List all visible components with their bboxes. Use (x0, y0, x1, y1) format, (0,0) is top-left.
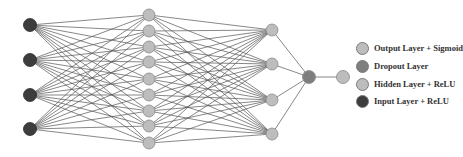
connection-edge (30, 60, 149, 126)
hidden1-node (143, 25, 155, 37)
hidden1-node (143, 56, 155, 68)
hidden2-node (266, 94, 278, 106)
legend-item-output: Output Layer + Sigmoid (356, 41, 463, 55)
legend-label: Dropout Layer (374, 61, 428, 71)
hidden1-node (143, 89, 155, 101)
hidden2-node (266, 128, 278, 140)
connection-edge (149, 134, 272, 143)
connection-edge (272, 77, 309, 134)
hidden1-node (143, 9, 155, 21)
legend-label: Input Layer + ReLU (374, 96, 449, 106)
hidden1-node (143, 73, 155, 85)
connection-edge (149, 64, 272, 143)
connection-edge (149, 62, 272, 100)
connection-edge (149, 47, 272, 64)
input-node (24, 19, 37, 32)
legend-label: Output Layer + Sigmoid (374, 43, 463, 53)
hidden-node-icon (356, 78, 369, 91)
connection-edges (30, 15, 343, 143)
connection-edge (149, 62, 272, 134)
connection-edge (149, 30, 272, 31)
output-node (337, 71, 350, 84)
hidden2-node (266, 58, 278, 70)
input-node (24, 123, 37, 136)
input-node (24, 54, 37, 67)
hidden1-node (143, 137, 155, 149)
legend-item-input: Input Layer + ReLU (356, 94, 449, 108)
hidden1-node (143, 41, 155, 53)
connection-edge (149, 100, 272, 111)
dropout-node-icon (356, 60, 369, 73)
input-node (24, 89, 37, 102)
hidden1-node (143, 105, 155, 117)
connection-edge (272, 30, 309, 77)
legend-item-dropout: Dropout Layer (356, 59, 428, 73)
legend-label: Hidden Layer + ReLU (374, 79, 455, 89)
output-node-icon (356, 42, 369, 55)
connection-edge (149, 30, 272, 111)
input-node-icon (356, 95, 369, 108)
legend-item-hidden: Hidden Layer + ReLU (356, 77, 455, 91)
connection-edge (149, 31, 272, 64)
connection-edge (30, 25, 149, 143)
connection-edge (30, 15, 149, 95)
connection-edge (30, 15, 149, 25)
hidden2-node (266, 24, 278, 36)
dropout-node (303, 71, 316, 84)
hidden1-node (143, 120, 155, 132)
connection-edge (149, 126, 272, 134)
